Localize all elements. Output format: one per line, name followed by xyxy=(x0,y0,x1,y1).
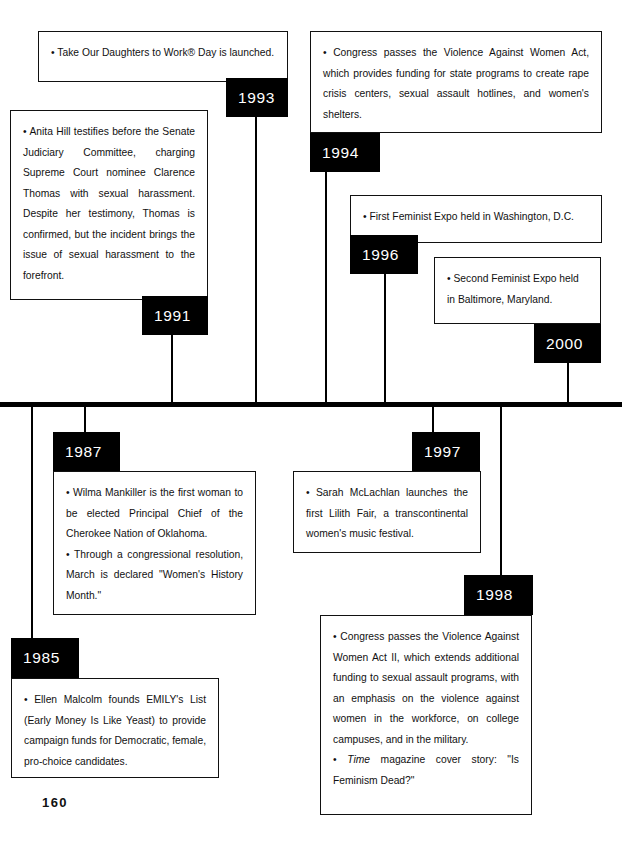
event-text: • Sarah McLachlan launches the first Lil… xyxy=(306,483,468,545)
bullet: • xyxy=(333,754,347,765)
event-box-2000: • Second Feminist Expo held in Baltimore… xyxy=(434,257,601,324)
event-text: • Take Our Daughters to Work® Day is lau… xyxy=(51,43,275,64)
year-label: 1994 xyxy=(322,144,359,162)
connector-1993 xyxy=(255,117,257,405)
connector-1991 xyxy=(171,335,173,405)
year-marker-1994[interactable]: 1994 xyxy=(310,133,380,172)
connector-1998 xyxy=(500,405,502,575)
year-label: 1985 xyxy=(23,649,60,667)
connector-1996 xyxy=(384,274,386,405)
year-label: 1998 xyxy=(476,586,513,604)
year-marker-1998[interactable]: 1998 xyxy=(464,575,533,615)
year-marker-1997[interactable]: 1997 xyxy=(412,432,480,471)
event-text: • Anita Hill testifies before the Senate… xyxy=(23,122,195,286)
event-box-1987: • Wilma Mankiller is the first woman to … xyxy=(53,471,256,615)
timeline-page: • Take Our Daughters to Work® Day is lau… xyxy=(0,0,622,862)
year-marker-1993[interactable]: 1993 xyxy=(226,78,288,117)
event-text: • Congress passes the Violence Against W… xyxy=(333,627,519,750)
event-box-1997: • Sarah McLachlan launches the first Lil… xyxy=(293,471,481,553)
connector-1994 xyxy=(325,172,327,405)
year-label: 1993 xyxy=(238,89,275,107)
connector-1997 xyxy=(432,405,434,432)
year-marker-2000[interactable]: 2000 xyxy=(534,324,601,363)
connector-1985 xyxy=(31,405,33,638)
event-text-time: • Time magazine cover story: "Is Feminis… xyxy=(333,750,519,791)
event-text: • First Feminist Expo held in Washington… xyxy=(363,207,589,228)
event-box-1985: • Ellen Malcolm founds EMILY's List (Ear… xyxy=(11,678,219,778)
event-text: • Congress passes the Violence Against W… xyxy=(323,43,589,125)
connector-2000 xyxy=(567,363,569,405)
year-label: 1987 xyxy=(65,443,102,461)
year-marker-1991[interactable]: 1991 xyxy=(142,296,208,335)
page-number: 160 xyxy=(42,795,68,810)
year-label: 1996 xyxy=(362,246,399,264)
connector-1987 xyxy=(84,405,86,432)
event-text: • Ellen Malcolm founds EMILY's List (Ear… xyxy=(24,690,206,772)
event-box-1993: • Take Our Daughters to Work® Day is lau… xyxy=(38,31,288,82)
year-label: 2000 xyxy=(546,335,583,353)
year-label: 1997 xyxy=(424,443,461,461)
event-text: • Second Feminist Expo held in Baltimore… xyxy=(447,269,588,310)
magazine-name: Time xyxy=(347,754,370,765)
event-box-1998: • Congress passes the Violence Against W… xyxy=(320,615,532,815)
timeline-axis xyxy=(0,402,622,407)
event-text: • Wilma Mankiller is the first woman to … xyxy=(66,483,243,545)
year-marker-1985[interactable]: 1985 xyxy=(11,638,79,678)
year-marker-1987[interactable]: 1987 xyxy=(53,432,120,471)
event-box-1991: • Anita Hill testifies before the Senate… xyxy=(10,110,208,300)
year-label: 1991 xyxy=(154,307,191,325)
event-box-1994: • Congress passes the Violence Against W… xyxy=(310,31,602,133)
event-text: • Through a congressional resolution, Ma… xyxy=(66,545,243,607)
year-marker-1996[interactable]: 1996 xyxy=(350,235,418,274)
